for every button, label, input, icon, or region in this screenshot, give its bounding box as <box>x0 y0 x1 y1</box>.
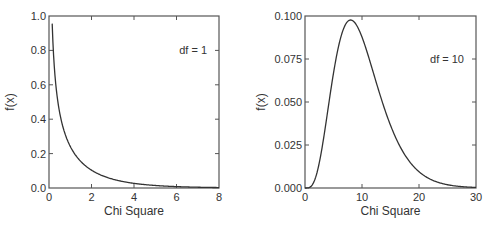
y-tick-label: 0.000 <box>274 182 302 194</box>
x-tick-label: 6 <box>173 191 179 203</box>
y-tick-label: 0.0 <box>31 182 46 194</box>
y-tick-label: 0.8 <box>31 44 46 56</box>
pdf-curve <box>305 20 476 188</box>
y-tick-label: 0.025 <box>274 139 302 151</box>
x-tick-label: 4 <box>131 191 137 203</box>
x-tick-label: 8 <box>216 191 222 203</box>
y-axis-label: f(x) <box>254 93 268 110</box>
df-annotation: df = 1 <box>179 44 207 56</box>
y-tick-label: 0.100 <box>274 10 302 22</box>
x-axis-label: Chi Square <box>104 204 164 218</box>
x-tick-label: 0 <box>302 191 308 203</box>
x-tick-label: 30 <box>470 191 482 203</box>
chart-df-1: 024680.00.20.40.60.81.0Chi Squaref(x)df … <box>3 10 222 218</box>
figure-canvas: 024680.00.20.40.60.81.0Chi Squaref(x)df … <box>0 0 496 228</box>
df-annotation: df = 10 <box>430 53 464 65</box>
y-tick-label: 1.0 <box>31 10 46 22</box>
plot-frame <box>49 16 219 188</box>
x-tick-label: 0 <box>46 191 52 203</box>
y-tick-label: 0.075 <box>274 53 302 65</box>
x-tick-label: 20 <box>413 191 425 203</box>
y-tick-label: 0.4 <box>31 113 46 125</box>
x-axis-label: Chi Square <box>360 204 420 218</box>
chart-df-10: 01020300.0000.0250.0500.0750.100Chi Squa… <box>254 10 482 218</box>
y-tick-label: 0.050 <box>274 96 302 108</box>
y-tick-label: 0.2 <box>31 148 46 160</box>
plot-frame <box>305 16 476 188</box>
y-axis-label: f(x) <box>3 93 17 110</box>
x-tick-label: 10 <box>356 191 368 203</box>
chi-square-figure: 024680.00.20.40.60.81.0Chi Squaref(x)df … <box>0 0 496 228</box>
x-tick-label: 2 <box>88 191 94 203</box>
y-tick-label: 0.6 <box>31 79 46 91</box>
